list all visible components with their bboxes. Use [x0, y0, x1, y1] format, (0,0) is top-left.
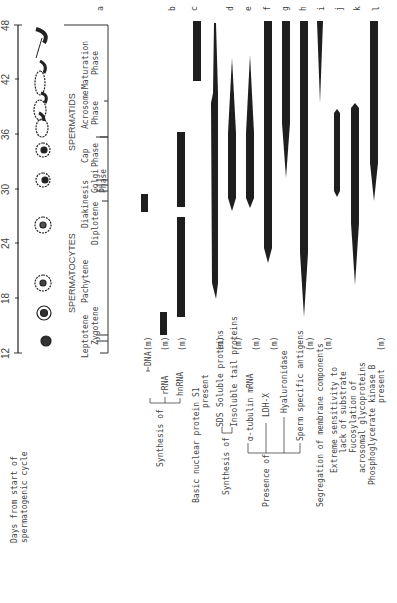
- diagram-stage: 12 18 24 30 36 42 48 Days from start of …: [0, 0, 397, 603]
- stage-leptotene: Leptotene: [81, 315, 90, 358]
- label-rrna: rRNA: [161, 376, 170, 395]
- row-letter-k: k: [353, 6, 362, 11]
- tick-18: 18: [1, 293, 10, 304]
- row-letter-c: c: [190, 6, 199, 11]
- stage-zygotene: Zygotene: [91, 306, 100, 345]
- stage-diplotene: Diplotene: [91, 202, 100, 245]
- m-marker-ldhx: (m): [270, 337, 279, 351]
- label-tubulin: α-tubulin mRNA: [246, 374, 255, 441]
- row-letter-j: j: [335, 6, 344, 11]
- spermatids-label: SPERMATIDS: [68, 93, 77, 151]
- m-marker-rrna: (m): [161, 337, 170, 351]
- m-marker-soluble: (m): [216, 337, 225, 351]
- label-hyaluronidase: Hyaluronidase: [280, 350, 289, 413]
- label-extreme-2: lack of substrate: [339, 371, 348, 453]
- label-insoluble: Insoluble tail proteins: [230, 316, 239, 427]
- m-marker-dna: (m): [144, 337, 153, 351]
- m-marker-pgk: (m): [377, 337, 386, 351]
- row-letter-b: b: [168, 6, 177, 11]
- tick-30: 30: [1, 184, 10, 195]
- label-fucosylation-2: acrosomal glycoproteins: [358, 362, 367, 473]
- stage-acrosome-2: Phase: [91, 101, 100, 125]
- tick-42: 42: [1, 74, 10, 85]
- label-dna: DNA: [144, 352, 153, 366]
- label-presence-of: Presence of: [262, 454, 271, 507]
- label-extreme-1: Extreme sensitivity to: [330, 367, 339, 473]
- row-letter-g: g: [281, 6, 290, 11]
- row-letter-e: e: [244, 6, 253, 11]
- stage-cap-1: Cap: [81, 149, 90, 163]
- tick-24: 24: [1, 238, 10, 249]
- label-basic-1: Basic nuclear protein S1: [192, 387, 201, 503]
- m-marker-insoluble: (m): [234, 337, 243, 351]
- label-pgk-2: present: [377, 369, 386, 403]
- tick-36: 36: [1, 129, 10, 140]
- row-letter-d: d: [226, 6, 235, 11]
- label-synthesis-of-2: Synthesis of: [222, 437, 231, 495]
- row-letter-h: h: [299, 6, 308, 11]
- stage-cap-2: Phase: [91, 143, 100, 167]
- m-marker-hnrna: (m): [178, 337, 187, 351]
- label-fucosylation-1: Fucosylation of: [349, 381, 358, 453]
- row-letter-l: l: [372, 6, 381, 11]
- label-sperm-antigens: Sperm specific antigens: [296, 330, 305, 441]
- label-sds: SDS: [216, 413, 225, 427]
- diagram-graphics: [0, 0, 397, 603]
- m-marker-tubulin: (m): [252, 337, 261, 351]
- label-basic-2: present: [201, 374, 210, 408]
- row-letter-a: a: [96, 6, 105, 11]
- label-segregation: Segregation of membrane components: [316, 343, 325, 507]
- m-marker-segregation: (m): [324, 337, 333, 351]
- axis-title-line2: spermatogenic cycle: [20, 451, 29, 543]
- spermatocytes-label: SPERMATOCYTES: [68, 233, 77, 313]
- stage-maturation-1: Maturation: [81, 41, 90, 89]
- stage-maturation-2: Phase: [91, 51, 100, 75]
- tick-12: 12: [1, 348, 10, 359]
- row-letter-i: i: [317, 6, 326, 11]
- stage-golgi-2: Phase: [99, 169, 108, 193]
- label-ldhx: LDH-X: [262, 393, 271, 417]
- m-marker-antigens: (m): [306, 337, 315, 351]
- label-pgk-1: Phosphoglycerate kinase B: [368, 365, 377, 485]
- stage-diakinesis: Diakinesis: [81, 180, 90, 228]
- label-hnrna: hnRNA: [176, 372, 185, 396]
- stage-acrosome-1: Acrosome: [81, 90, 90, 129]
- label-synthesis-of-1: Synthesis of: [156, 409, 165, 467]
- axis-title-line1: Days from start of: [10, 456, 19, 543]
- tick-48: 48: [1, 20, 10, 31]
- stage-pachytene: Pachytene: [81, 260, 90, 303]
- row-letter-f: f: [263, 6, 272, 11]
